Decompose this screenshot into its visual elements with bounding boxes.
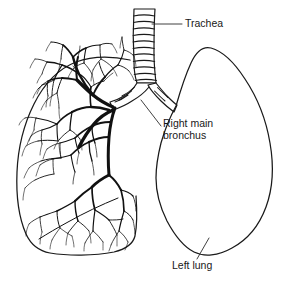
lung-anatomy-figure: Trachea Right main bronchus Left lung [0,0,287,282]
trachea [133,9,157,83]
right-main-bronchus-label-line2: bronchus [163,129,206,141]
right-main-bronchus-label-line1: Right main [163,117,213,129]
lung-diagram-canvas: Trachea Right main bronchus Left lung [0,0,287,282]
trachea-tube [133,9,156,83]
trachea-label: Trachea [185,17,223,29]
left-lung-label: Left lung [172,259,212,271]
